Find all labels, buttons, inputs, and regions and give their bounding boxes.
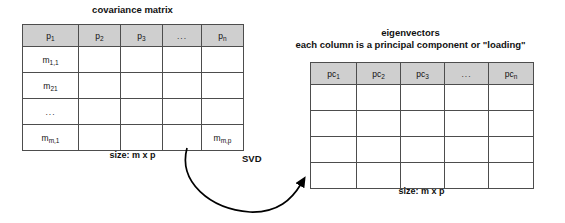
right-matrix-title: eigenvectors each column is a principal … <box>288 27 533 51</box>
cell-r1-c4 <box>163 47 202 73</box>
cell-r2-c5 <box>202 73 244 99</box>
column-header-3: p3 <box>121 25 163 47</box>
table-header-row: p1p2p3...pn <box>23 25 244 47</box>
cell-r3-c4 <box>445 137 489 163</box>
column-header-2: p2 <box>79 25 121 47</box>
cell-r3-c1: ... <box>23 99 79 125</box>
cell-r3-c3 <box>401 137 445 163</box>
table-row: m1,1 <box>23 47 244 73</box>
cell-r1-c1 <box>311 85 357 111</box>
right-matrix-caption-text: size: m x p <box>398 186 444 196</box>
cell-r2-c2 <box>79 73 121 99</box>
table-row: m21 <box>23 73 244 99</box>
cell-r2-c2 <box>357 111 401 137</box>
left-matrix-caption: size: m x p <box>22 150 243 160</box>
column-header-1: p1 <box>23 25 79 47</box>
cell-r2-c4 <box>163 73 202 99</box>
table-row <box>311 111 534 137</box>
right-matrix-title-line2: each column is a principal component or … <box>288 39 533 51</box>
svd-arrow-label: SVD <box>242 153 262 164</box>
cell-r2-c1 <box>311 111 357 137</box>
cell-r4-c3 <box>401 163 445 189</box>
column-header-1: pc1 <box>311 63 357 85</box>
table-row: mm,1mm,p <box>23 125 244 151</box>
cell-r3-c5 <box>202 99 244 125</box>
cell-r4-c4 <box>445 163 489 189</box>
cell-r3-c1 <box>311 137 357 163</box>
cell-r4-c5 <box>489 163 534 189</box>
column-header-5: pcn <box>489 63 534 85</box>
cell-r4-c2 <box>79 125 121 151</box>
cell-r2-c4 <box>445 111 489 137</box>
cell-r4-c4 <box>163 125 202 151</box>
cell-r1-c2 <box>357 85 401 111</box>
cell-r3-c3 <box>121 99 163 125</box>
table-row <box>311 137 534 163</box>
cell-r2-c3 <box>121 73 163 99</box>
cell-r1-c5 <box>202 47 244 73</box>
cell-r3-c2 <box>79 99 121 125</box>
cell-r1-c4 <box>445 85 489 111</box>
cell-r1-c3 <box>401 85 445 111</box>
column-header-4: ... <box>445 63 489 85</box>
cell-r2-c3 <box>401 111 445 137</box>
cell-r1-c3 <box>121 47 163 73</box>
cell-r3-c5 <box>489 137 534 163</box>
svd-arrow-label-text: SVD <box>242 153 262 164</box>
table-header-row: pc1pc2pc3...pcn <box>311 63 534 85</box>
cell-r4-c1 <box>311 163 357 189</box>
cell-r2-c1: m21 <box>23 73 79 99</box>
left-matrix-title: covariance matrix <box>22 4 243 16</box>
cell-r4-c2 <box>357 163 401 189</box>
right-matrix-title-line1: eigenvectors <box>288 27 533 39</box>
table-row: ... <box>23 99 244 125</box>
column-header-2: pc2 <box>357 63 401 85</box>
cell-r4-c5: mm,p <box>202 125 244 151</box>
covariance-matrix-table: p1p2p3...pnm1,1m21...mm,1mm,p <box>22 24 244 151</box>
cell-r3-c2 <box>357 137 401 163</box>
column-header-5: pn <box>202 25 244 47</box>
table-row <box>311 85 534 111</box>
cell-r4-c3 <box>121 125 163 151</box>
right-matrix-caption: size: m x p <box>310 186 533 196</box>
cell-r1-c1: m1,1 <box>23 47 79 73</box>
left-matrix-title-text: covariance matrix <box>92 4 173 15</box>
cell-r1-c2 <box>79 47 121 73</box>
cell-r4-c1: mm,1 <box>23 125 79 151</box>
eigenvectors-table: pc1pc2pc3...pcn <box>310 62 534 189</box>
cell-r2-c5 <box>489 111 534 137</box>
left-matrix-caption-text: size: m x p <box>109 150 155 160</box>
cell-r1-c5 <box>489 85 534 111</box>
column-header-3: pc3 <box>401 63 445 85</box>
table-row <box>311 163 534 189</box>
cell-r3-c4 <box>163 99 202 125</box>
column-header-4: ... <box>163 25 202 47</box>
diagram-canvas: covariance matrix p1p2p3...pnm1,1m21...m… <box>0 0 565 223</box>
